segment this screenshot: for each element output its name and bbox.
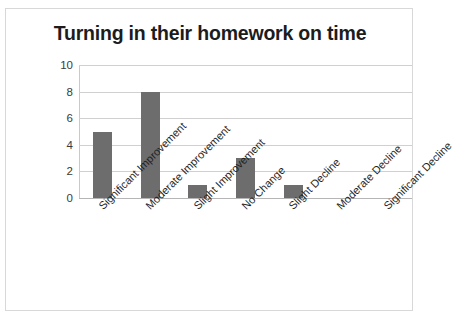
gridline: [79, 145, 412, 146]
chart-title: Turning in their homework on time: [6, 22, 414, 45]
y-axis-tick-label: 6: [67, 112, 73, 124]
chart-container: Turning in their homework on time 024681…: [5, 8, 413, 311]
y-axis-tick-label: 2: [67, 165, 73, 177]
gridline: [79, 92, 412, 93]
y-axis-tick-label: 10: [60, 59, 73, 71]
gridline: [79, 65, 412, 66]
gridline: [79, 118, 412, 119]
y-axis-tick-label: 4: [67, 139, 73, 151]
bar: [93, 132, 112, 199]
y-axis-tick-label: 0: [67, 192, 73, 204]
y-axis-line: [79, 65, 80, 198]
y-axis-tick-label: 8: [67, 86, 73, 98]
